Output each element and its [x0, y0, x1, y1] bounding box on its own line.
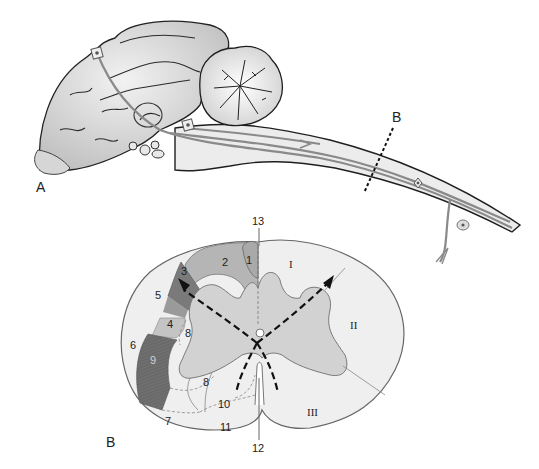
funiculus-label-i: I: [289, 259, 293, 270]
region-label-3: 3: [181, 266, 187, 277]
region-label-13: 13: [252, 216, 264, 227]
region-label-10: 10: [218, 399, 230, 410]
brain-sagittal: [35, 21, 520, 264]
region-label-4: 4: [167, 319, 173, 330]
region-label-6: 6: [130, 340, 136, 351]
region-label-8b: 8: [203, 377, 209, 388]
hypothalamic-structures: [129, 141, 164, 158]
figure-canvas: [0, 0, 539, 469]
central-canal: [256, 329, 264, 337]
region-label-7: 7: [165, 416, 171, 427]
spinal-cord-cross-section: [121, 228, 404, 440]
panel-label-b: B: [106, 435, 115, 449]
region-label-11: 11: [220, 422, 231, 433]
region-label-12: 12: [252, 443, 264, 454]
funiculus-label-iii: III: [307, 407, 318, 418]
region-label-9: 9: [150, 355, 156, 366]
region-label-2: 2: [222, 257, 228, 268]
neuroanatomy-figure: A B B 1 2 3 4 5 6 7 8 8 9 10 11 12 13 I …: [0, 0, 539, 469]
region-label-5: 5: [155, 290, 161, 301]
funiculus-label-ii: II: [350, 320, 357, 331]
region-label-1: 1: [246, 255, 252, 266]
section-label-b: B: [392, 110, 401, 124]
nerve-ending: [436, 248, 448, 264]
panel-label-a: A: [36, 180, 45, 194]
region-label-8a: 8: [185, 328, 191, 339]
